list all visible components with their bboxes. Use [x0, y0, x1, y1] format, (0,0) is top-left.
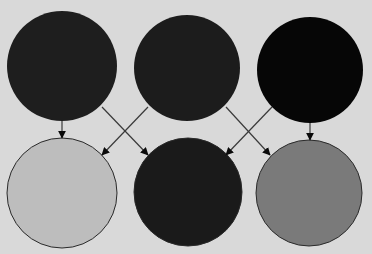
diagram-svg [0, 0, 372, 254]
bottom-middle-circle [134, 138, 242, 246]
bottom-right-circle [256, 140, 362, 246]
bottom-left-circle [7, 138, 117, 248]
target-circles [7, 138, 362, 248]
top-left-circle [7, 11, 117, 121]
diagram-canvas [0, 0, 372, 254]
top-right-circle [257, 17, 363, 123]
source-circles [7, 11, 363, 123]
top-middle-circle [134, 15, 240, 121]
